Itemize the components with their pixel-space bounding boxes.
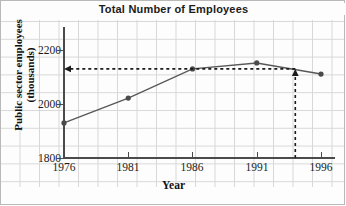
chart-plot-area <box>1 1 346 206</box>
annotation-arrows <box>64 66 299 159</box>
data-point-1976 <box>61 120 66 125</box>
data-point-1996 <box>318 71 323 76</box>
data-point-1991 <box>254 60 259 65</box>
horizontal-guide-arrow-head <box>64 66 71 73</box>
employees-line-series <box>64 63 321 123</box>
data-point-markers <box>61 60 323 125</box>
data-point-1981 <box>126 95 131 100</box>
